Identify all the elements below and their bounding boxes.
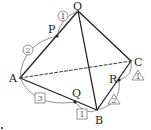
point-P: [55, 34, 58, 37]
edge-AB: [20, 78, 97, 110]
ratio-RB-text: 2: [112, 96, 117, 105]
corner-mark: [1, 127, 3, 129]
tetrahedron-diagram: O A B C P Q R 1 2 3 1 1 2: [0, 0, 151, 130]
edge-OA: [20, 11, 78, 78]
point-R: [117, 78, 120, 81]
ratio-mark-QB: 1: [77, 109, 87, 119]
label-C: C: [134, 56, 142, 69]
ratio-PA-text: 2: [26, 46, 31, 55]
ratio-QB-text: 1: [80, 110, 85, 119]
ratio-OP-text: 1: [61, 12, 66, 21]
ratio-mark-OP: 1: [58, 11, 68, 21]
point-Q: [73, 100, 76, 103]
ratio-mark-PA: 2: [23, 45, 33, 55]
ratio-CR-text: 1: [136, 72, 141, 81]
ratio-AQ-text: 3: [38, 94, 43, 103]
ratio-mark-RB: 2: [108, 94, 120, 105]
ratio-mark-AQ: 3: [35, 93, 45, 103]
ratio-mark-CR: 1: [132, 70, 144, 81]
points: [55, 34, 120, 103]
label-Q: Q: [72, 87, 81, 100]
label-R: R: [109, 73, 118, 86]
label-B: B: [95, 114, 103, 127]
label-A: A: [8, 72, 18, 85]
label-P: P: [48, 23, 56, 36]
label-O: O: [73, 0, 82, 13]
